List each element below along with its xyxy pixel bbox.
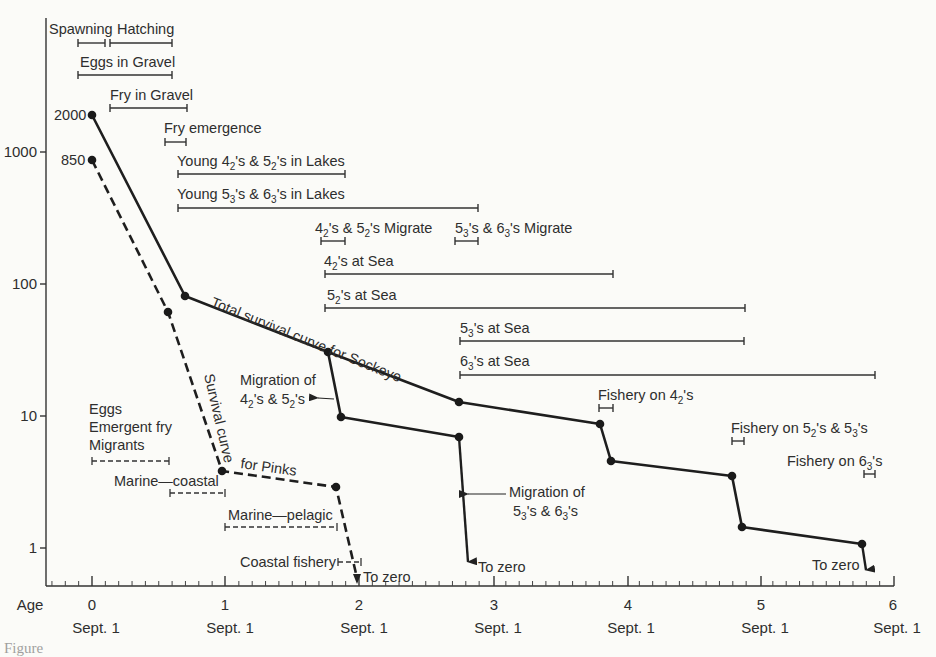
label-fry-in-gravel: Fry in Gravel: [110, 87, 193, 103]
label-spawning: Spawning: [49, 21, 113, 37]
label-63-at-sea: 63's at Sea: [460, 353, 531, 372]
y-axis: [40, 18, 46, 586]
figure-caption: Figure: [4, 640, 43, 657]
y-tick-1: 1: [29, 539, 37, 556]
label-migration-53-63-a: Migration of: [509, 484, 586, 500]
bar-eggs-in-gravel: [78, 71, 172, 79]
bar-52-at-sea: [325, 304, 745, 312]
x-tick-4: 4: [624, 596, 632, 613]
y-tick-labels: 1000 100 10 1: [4, 143, 37, 556]
bar-42-at-sea: [325, 270, 613, 278]
pinks-to-zero-arrow: [353, 574, 361, 584]
x-tick-3: 3: [490, 596, 498, 613]
bar-hatching: [110, 39, 172, 47]
x-axis: [46, 576, 894, 586]
bar-fry-in-gravel: [110, 104, 187, 112]
label-migrants: Migrants: [89, 437, 145, 453]
y-tick-10: 10: [20, 407, 37, 424]
x-sublabel-1: Sept. 1: [206, 619, 254, 636]
age-label: Age: [17, 596, 44, 613]
label-migration-53-63-b: 53's & 63's: [513, 503, 578, 522]
x-sublabel-4: Sept. 1: [607, 619, 655, 636]
x-tick-labels: Age 0 1 2 3 4 5 6 Sept. 1 Sept. 1 Sept. …: [17, 596, 921, 636]
label-hatching: Hatching: [117, 21, 174, 37]
x-axis-minor-ticks: [52, 581, 880, 586]
x-sublabel-2: Sept. 1: [340, 619, 388, 636]
bar-young-4-5-lakes: [178, 170, 345, 178]
bar-fry-emergence: [165, 138, 186, 146]
y-tick-100: 100: [12, 275, 37, 292]
y-tick-1000: 1000: [4, 143, 37, 160]
pinks-curve-label-a: Survival curve: [201, 372, 237, 464]
label-eggs: Eggs: [89, 401, 122, 417]
x-tick-6: 6: [889, 596, 897, 613]
label-42-at-sea: 42's at Sea: [324, 253, 395, 272]
x-tick-1: 1: [221, 596, 229, 613]
label-fishery-42: Fishery on 42's: [598, 387, 693, 406]
label-marine-coastal: Marine—coastal: [114, 473, 219, 489]
label-fry-emergence: Fry emergence: [164, 120, 262, 136]
label-fishery-52-53: Fishery on 52's & 53's: [731, 420, 868, 439]
life-stage-bars: [78, 39, 875, 478]
x-sublabel-6: Sept. 1: [873, 619, 921, 636]
annotation-arrows: [318, 398, 506, 494]
x-tick-2: 2: [355, 596, 363, 613]
bar-young-5-6-lakes: [178, 204, 478, 212]
bar-fishery-52-53: [732, 437, 744, 445]
bar-63-at-sea: [460, 371, 875, 379]
bar-fishery-42: [599, 404, 613, 412]
label-young-4-5-lakes: Young 42's & 52's in Lakes: [177, 153, 345, 172]
start-value-sockeye: 2000: [54, 107, 86, 123]
label-coastal-fishery: Coastal fishery: [240, 554, 337, 570]
label-to-zero-sockeye-1: To zero: [478, 559, 526, 575]
label-marine-pelagic: Marine—pelagic: [228, 507, 333, 523]
x-tick-5: 5: [757, 596, 765, 613]
label-emergent-fry: Emergent fry: [89, 419, 173, 435]
x-tick-0: 0: [88, 596, 96, 613]
label-53-at-sea: 53's at Sea: [460, 320, 531, 339]
label-migration-42-52-b: 42's & 52's: [240, 391, 305, 410]
label-52-at-sea: 52's at Sea: [327, 287, 398, 306]
label-to-zero-sockeye-2: To zero: [812, 557, 860, 573]
label-eggs-in-gravel: Eggs in Gravel: [80, 54, 175, 70]
label-young-5-6-lakes: Young 53's & 63's in Lakes: [177, 186, 345, 205]
bar-53-at-sea: [460, 337, 744, 345]
x-sublabel-5: Sept. 1: [741, 619, 789, 636]
x-sublabel-3: Sept. 1: [474, 619, 522, 636]
label-migration-42-52-a: Migration of: [240, 372, 317, 388]
label-to-zero-pinks: To zero: [363, 569, 411, 585]
label-42-52-migrate: 42's & 52's Migrate: [315, 220, 432, 239]
label-53-63-migrate: 53's & 63's Migrate: [455, 220, 572, 239]
label-fishery-63: Fishery on 63's: [787, 453, 882, 472]
x-sublabel-0: Sept. 1: [72, 619, 120, 636]
bar-spawning: [78, 39, 105, 47]
start-value-pinks: 850: [61, 152, 85, 168]
